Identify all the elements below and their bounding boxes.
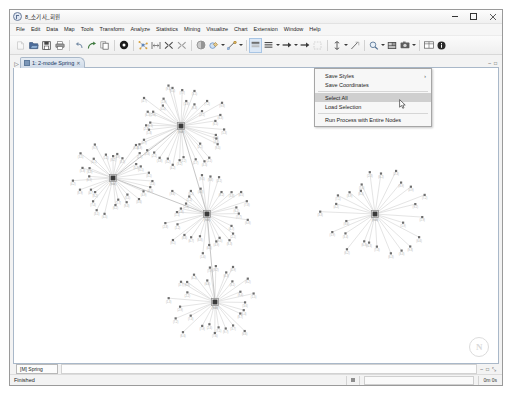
ctx-run-process-entire-nodes[interactable]: Run Process with Entire Nodes [315, 115, 431, 124]
link-style-dropdown-caret[interactable] [238, 38, 243, 53]
maximize-pane-icon[interactable]: □ [494, 61, 497, 66]
svg-text:(4-9): (4-9) [141, 193, 147, 197]
ctx-save-styles[interactable]: Save Styles › [315, 71, 431, 80]
menu-edit[interactable]: Edit [28, 24, 43, 35]
pane-restore-icon[interactable]: – [480, 367, 483, 372]
menu-map[interactable]: Map [61, 24, 78, 35]
svg-text:(7-7): (7-7) [179, 91, 185, 95]
progress-stop-icon[interactable] [346, 376, 359, 385]
svg-text:(6-8): (6-8) [184, 283, 190, 287]
save-icon[interactable] [40, 38, 53, 53]
svg-text:(hub): (hub) [372, 218, 379, 222]
node-style-icon[interactable] [207, 38, 220, 53]
menu-transform[interactable]: Transform [97, 24, 128, 35]
menu-statistics[interactable]: Statistics [153, 24, 181, 35]
menu-visualize[interactable]: Visualize [203, 24, 231, 35]
toolbar-separator [69, 40, 70, 51]
capture-icon[interactable] [398, 38, 411, 53]
link-label-icon[interactable] [262, 38, 275, 53]
context-menu[interactable]: Save Styles › Save Coordinates Select Al… [314, 68, 432, 127]
svg-text:(6-5): (6-5) [213, 122, 219, 126]
menu-window[interactable]: Window [281, 24, 307, 35]
svg-text:(1-5): (1-5) [251, 295, 257, 299]
link-width-icon[interactable] [348, 38, 361, 53]
netminer-logo-icon [13, 12, 22, 21]
menu-mining[interactable]: Mining [181, 24, 203, 35]
capture-dropdown-caret[interactable] [411, 38, 416, 53]
svg-text:(5-8): (5-8) [80, 169, 86, 173]
menu-file[interactable]: File [13, 24, 28, 35]
svg-text:(3-2): (3-2) [177, 162, 183, 166]
svg-text:(4-7): (4-7) [88, 191, 94, 195]
node-color-icon[interactable] [194, 38, 207, 53]
info-icon[interactable] [435, 38, 448, 53]
svg-text:(2-6): (2-6) [144, 152, 150, 156]
maximize-button[interactable] [464, 10, 483, 23]
restore-pane-icon[interactable]: – [488, 61, 491, 66]
svg-text:(2-2): (2-2) [185, 294, 191, 298]
new-file-icon[interactable] [14, 38, 27, 53]
copy-icon[interactable] [98, 38, 111, 53]
fit-to-window-icon[interactable] [149, 38, 162, 53]
menu-chart[interactable]: Chart [231, 24, 250, 35]
svg-text:(6-4): (6-4) [133, 146, 139, 150]
redo-icon[interactable] [85, 38, 98, 53]
network-canvas-container[interactable]: (9-1)(5-4)(7-7)(1-8)(5-1)(9-3)(7-2)(2-1)… [13, 68, 499, 364]
menu-analyze[interactable]: Analyze [127, 24, 153, 35]
svg-text:(6-2): (6-2) [344, 251, 350, 255]
node-label-icon[interactable] [249, 38, 262, 53]
export-image-icon[interactable] [385, 38, 398, 53]
menu-data[interactable]: Data [43, 24, 61, 35]
menu-tools[interactable]: Tools [78, 24, 97, 35]
pane-float-icon[interactable]: ⤡ [492, 367, 496, 372]
svg-text:(5-1): (5-1) [192, 92, 198, 96]
menu-extension[interactable]: Extension [251, 24, 281, 35]
minimize-button[interactable] [445, 10, 464, 23]
svg-text:(7-9): (7-9) [207, 269, 213, 273]
svg-text:(8-3): (8-3) [399, 252, 405, 256]
tab-2mode-spring[interactable]: 1: 2-mode Spring ✕ [20, 57, 85, 68]
node-size-icon[interactable] [330, 38, 343, 53]
deselect-nodes-icon[interactable] [175, 38, 188, 53]
select-nodes-icon[interactable] [162, 38, 175, 53]
toolbar-separator [419, 40, 420, 51]
svg-text:(1-3): (1-3) [166, 300, 172, 304]
arrow-direction-icon[interactable] [298, 38, 311, 53]
arrow-style-icon[interactable] [280, 38, 293, 53]
svg-text:(3-1): (3-1) [230, 283, 236, 287]
undo-icon[interactable] [72, 38, 85, 53]
svg-text:(9-5): (9-5) [215, 146, 221, 150]
elapsed-time: 0m 0s [478, 376, 502, 385]
bounding-box-icon[interactable] [311, 38, 324, 53]
svg-text:(1-8): (1-8) [146, 131, 152, 135]
svg-text:(9-7): (9-7) [92, 146, 98, 150]
ctx-load-selection[interactable]: Load Selection [315, 102, 431, 111]
svg-text:(7-8): (7-8) [244, 203, 250, 207]
run-process-icon[interactable] [117, 38, 130, 53]
layout-mode-label[interactable]: [M] Spring [16, 364, 58, 374]
open-file-icon[interactable] [27, 38, 40, 53]
ctx-select-all[interactable]: Select All [315, 93, 431, 102]
svg-text:(3-1): (3-1) [94, 212, 100, 216]
svg-text:(9-5): (9-5) [217, 239, 223, 243]
svg-text:(2-8): (2-8) [178, 210, 184, 214]
menu-help[interactable]: Help [306, 24, 323, 35]
svg-text:(6-3): (6-3) [218, 116, 224, 120]
pin-icon[interactable]: ▷ [13, 59, 20, 68]
svg-text:(9-8): (9-8) [407, 248, 413, 252]
spring-layout-icon[interactable] [136, 38, 149, 53]
ctx-save-coordinates[interactable]: Save Coordinates [315, 80, 431, 89]
svg-text:(2-6): (2-6) [150, 113, 156, 117]
svg-text:(4-3): (4-3) [198, 190, 204, 194]
svg-text:(hub): (hub) [212, 306, 219, 310]
close-tab-icon[interactable]: ✕ [76, 60, 80, 66]
data-table-icon[interactable] [422, 38, 435, 53]
link-style-icon[interactable] [225, 38, 238, 53]
svg-text:(6-3): (6-3) [366, 244, 372, 248]
pane-maximize-icon[interactable]: □ [486, 367, 489, 372]
svg-text:(1-8): (1-8) [184, 102, 190, 106]
svg-text:(1-2): (1-2) [103, 156, 109, 160]
zoom-icon[interactable] [367, 38, 380, 53]
print-icon[interactable] [53, 38, 66, 53]
close-button[interactable] [483, 10, 502, 23]
